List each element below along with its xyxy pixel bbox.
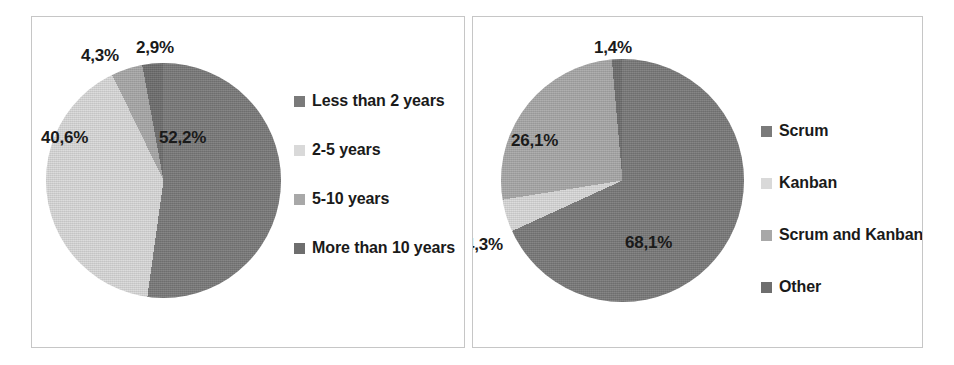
- panel-clip-left: 52,2% 40,6% 4,3% 2,9% Less than 2 years …: [32, 17, 464, 347]
- data-label-scrum: 68,1%: [625, 233, 672, 253]
- legend-item-kanban[interactable]: Kanban: [761, 174, 837, 192]
- chart-panel-experience: 52,2% 40,6% 4,3% 2,9% Less than 2 years …: [31, 16, 465, 348]
- data-label-kanban: 4,3%: [473, 235, 503, 255]
- pie-slices-experience: [46, 63, 281, 298]
- legend-swatch-icon: [761, 178, 772, 189]
- scanned-page: 52,2% 40,6% 4,3% 2,9% Less than 2 years …: [0, 0, 954, 365]
- pie-slices-methodology: [501, 59, 744, 302]
- chart-panel-methodology: 68,1% 4,3% 26,1% 1,4% Scrum Kanban Scrum…: [472, 16, 923, 348]
- legend-swatch-icon: [294, 243, 305, 254]
- legend-item-label: More than 10 years: [312, 239, 455, 257]
- pie-chart-methodology: [501, 59, 744, 302]
- legend-swatch-icon: [294, 96, 305, 107]
- data-label-5-10-years: 4,3%: [81, 46, 119, 66]
- legend-item-label: Other: [779, 278, 821, 296]
- legend-item-label: Less than 2 years: [312, 92, 445, 110]
- legend-swatch-icon: [294, 194, 305, 205]
- legend-item-5-10-years[interactable]: 5-10 years: [294, 190, 389, 208]
- legend-item-less-than-2-years[interactable]: Less than 2 years: [294, 92, 445, 110]
- data-label-less-than-2-years: 52,2%: [159, 128, 206, 148]
- legend-swatch-icon: [761, 282, 772, 293]
- legend-item-2-5-years[interactable]: 2-5 years: [294, 141, 381, 159]
- legend-item-scrum[interactable]: Scrum: [761, 122, 828, 140]
- legend-item-scrum-and-kanban[interactable]: Scrum and Kanban: [761, 226, 922, 244]
- legend-swatch-icon: [294, 145, 305, 156]
- data-label-scrum-and-kanban: 26,1%: [511, 131, 558, 151]
- data-label-more-than-10-years: 2,9%: [136, 38, 174, 58]
- legend-item-label: Scrum and Kanban: [779, 226, 922, 244]
- pie-chart-experience: [46, 63, 281, 298]
- panel-clip-right: 68,1% 4,3% 26,1% 1,4% Scrum Kanban Scrum…: [473, 17, 922, 347]
- legend-item-label: Kanban: [779, 174, 837, 192]
- legend-item-label: 5-10 years: [312, 190, 389, 208]
- legend-item-label: 2-5 years: [312, 141, 381, 159]
- legend-item-label: Scrum: [779, 122, 828, 140]
- data-label-2-5-years: 40,6%: [41, 128, 88, 148]
- legend-item-more-than-10-years[interactable]: More than 10 years: [294, 239, 455, 257]
- legend-item-other[interactable]: Other: [761, 278, 821, 296]
- data-label-other: 1,4%: [594, 38, 632, 58]
- legend-swatch-icon: [761, 126, 772, 137]
- legend-swatch-icon: [761, 230, 772, 241]
